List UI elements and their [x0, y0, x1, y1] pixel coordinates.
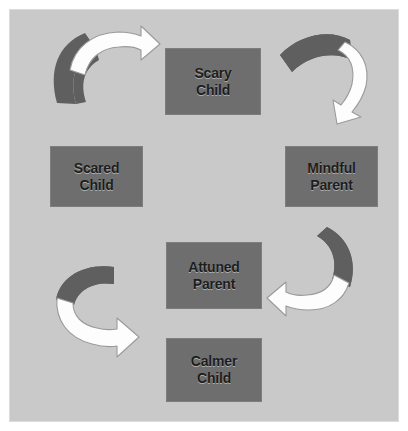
- node-scary-child: Scary Child: [165, 48, 261, 115]
- node-attuned-parent-line1: Attuned: [188, 259, 239, 276]
- node-attuned-parent: Attuned Parent: [166, 242, 262, 309]
- node-calmer-child: Calmer Child: [166, 338, 262, 402]
- node-scary-child-line2: Child: [196, 82, 230, 99]
- node-attuned-parent-line2: Parent: [193, 276, 235, 293]
- arrow-mindful-parent-to-attuned-parent: [267, 227, 353, 316]
- arrow-calmer-child-to-scared-child: [56, 266, 139, 357]
- diagram-panel: Scary Child Scared Child Mindful Parent …: [9, 9, 399, 422]
- arrow-scared-child-to-scary-child: [54, 26, 160, 104]
- node-scared-child-line2: Child: [80, 177, 114, 194]
- node-calmer-child-line1: Calmer: [191, 353, 237, 370]
- node-calmer-child-line2: Child: [197, 370, 231, 387]
- node-mindful-parent-line2: Parent: [310, 177, 352, 194]
- diagram-canvas: Scary Child Scared Child Mindful Parent …: [0, 0, 408, 431]
- arrow-scary-child-to-mindful-parent: [280, 34, 367, 124]
- node-mindful-parent-line1: Mindful: [307, 160, 355, 177]
- node-scary-child-line1: Scary: [194, 65, 231, 82]
- node-scared-child: Scared Child: [50, 146, 143, 207]
- node-scared-child-line1: Scared: [74, 160, 120, 177]
- node-mindful-parent: Mindful Parent: [285, 146, 378, 207]
